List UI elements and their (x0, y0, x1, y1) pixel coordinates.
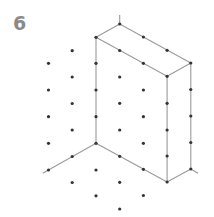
box-bottom-front-edge (96, 143, 167, 182)
dot-grid (47, 22, 193, 210)
grid-dot (94, 194, 97, 197)
grid-dot (94, 115, 97, 118)
grid-dot (189, 167, 192, 170)
grid-dot (118, 22, 121, 25)
left-diagonal-guide (43, 143, 96, 173)
box-bottom-right-edge (167, 169, 191, 182)
grid-dot (189, 114, 192, 117)
grid-dot (71, 102, 74, 105)
grid-dot (47, 62, 50, 65)
grid-dot (142, 88, 145, 91)
grid-dot (142, 62, 145, 65)
grid-dot (142, 35, 145, 38)
box-top-back-edge (120, 24, 191, 63)
grid-dot (47, 168, 50, 171)
box-top-front-edge (96, 37, 167, 76)
grid-dot (166, 49, 169, 52)
grid-dot (166, 102, 169, 105)
grid-dot (118, 75, 121, 78)
box-top-left-edge (96, 24, 120, 37)
grid-dot (166, 75, 169, 78)
grid-dot (94, 168, 97, 171)
isometric-diagram (0, 0, 214, 217)
grid-dot (71, 181, 74, 184)
grid-dot (142, 168, 145, 171)
grid-dot (94, 36, 97, 39)
grid-dot (71, 128, 74, 131)
grid-dot (142, 142, 145, 145)
grid-dot (47, 115, 50, 118)
grid-dot (94, 62, 97, 65)
grid-dot (118, 207, 121, 210)
grid-dot (71, 49, 74, 52)
grid-dot (47, 88, 50, 91)
grid-dot (166, 128, 169, 131)
box-top-right-edge (167, 63, 191, 76)
grid-dot (118, 155, 121, 158)
grid-dot (71, 75, 74, 78)
grid-dot (118, 181, 121, 184)
grid-dot (166, 154, 169, 157)
grid-dot (142, 194, 145, 197)
grid-dot (118, 128, 121, 131)
grid-dot (47, 142, 50, 145)
grid-dot (189, 141, 192, 144)
grid-dot (189, 61, 192, 64)
grid-dot (142, 115, 145, 118)
grid-dot (94, 142, 97, 145)
grid-dot (118, 102, 121, 105)
grid-dot (166, 180, 169, 183)
grid-dot (118, 49, 121, 52)
grid-dot (189, 88, 192, 91)
grid-dot (71, 155, 74, 158)
grid-dot (94, 88, 97, 91)
